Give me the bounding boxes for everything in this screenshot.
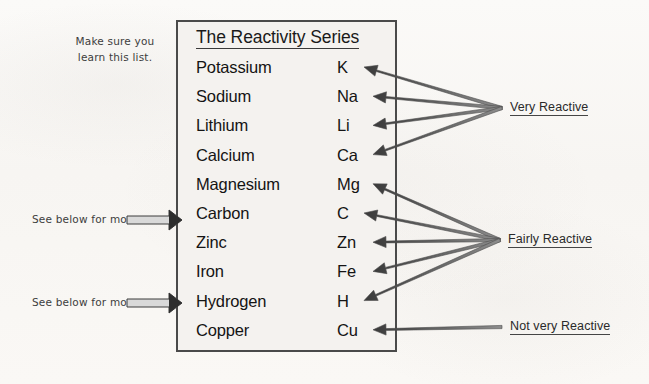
- element-row: PotassiumK: [196, 58, 392, 85]
- element-name: Hydrogen: [196, 292, 266, 311]
- page-title-text: The Reactivity Series: [196, 27, 359, 49]
- element-row: MagnesiumMg: [196, 175, 392, 202]
- element-row: CopperCu: [196, 321, 392, 348]
- element-symbol: Na: [337, 87, 358, 106]
- note-learn-line-1: Make sure you: [76, 35, 155, 47]
- element-row: LithiumLi: [196, 116, 392, 143]
- element-row: ZincZn: [196, 233, 392, 260]
- element-name: Zinc: [196, 233, 227, 252]
- element-row: CalciumCa: [196, 146, 392, 173]
- element-symbol: K: [337, 58, 348, 77]
- element-symbol: Zn: [337, 233, 356, 252]
- element-symbol: H: [337, 292, 349, 311]
- category-label-very-reactive-text: Very Reactive: [510, 100, 588, 116]
- element-symbol: Ca: [337, 146, 358, 165]
- element-name: Copper: [196, 321, 249, 340]
- element-symbol: Fe: [337, 262, 356, 281]
- element-symbol: Mg: [337, 175, 360, 194]
- note-see-below-hydrogen: See below for more.: [32, 296, 141, 308]
- page-title: The Reactivity Series: [196, 27, 386, 48]
- element-row: CarbonC: [196, 204, 392, 231]
- element-name: Calcium: [196, 146, 255, 165]
- element-name: Magnesium: [196, 175, 280, 194]
- element-name: Lithium: [196, 116, 248, 135]
- note-learn-line-2: learn this list.: [78, 51, 152, 63]
- category-label-fairly-reactive-text: Fairly Reactive: [508, 232, 592, 248]
- note-learn-this-list: Make sure you learn this list.: [60, 33, 170, 65]
- element-name: Sodium: [196, 87, 251, 106]
- element-row: SodiumNa: [196, 87, 392, 114]
- category-label-not-very-reactive-text: Not very Reactive: [510, 319, 610, 335]
- element-name: Iron: [196, 262, 224, 281]
- category-label-fairly-reactive: Fairly Reactive: [508, 232, 592, 246]
- note-see-below-carbon: See below for more.: [32, 213, 141, 225]
- element-name: Potassium: [196, 58, 272, 77]
- category-label-not-very-reactive: Not very Reactive: [510, 319, 610, 333]
- element-row: HydrogenH: [196, 292, 392, 319]
- element-row: IronFe: [196, 262, 392, 289]
- category-label-very-reactive: Very Reactive: [510, 100, 588, 114]
- worksheet-page: The Reactivity Series PotassiumKSodiumNa…: [0, 0, 649, 384]
- element-name: Carbon: [196, 204, 249, 223]
- element-symbol: Li: [337, 116, 350, 135]
- element-symbol: C: [337, 204, 349, 223]
- element-symbol: Cu: [337, 321, 358, 340]
